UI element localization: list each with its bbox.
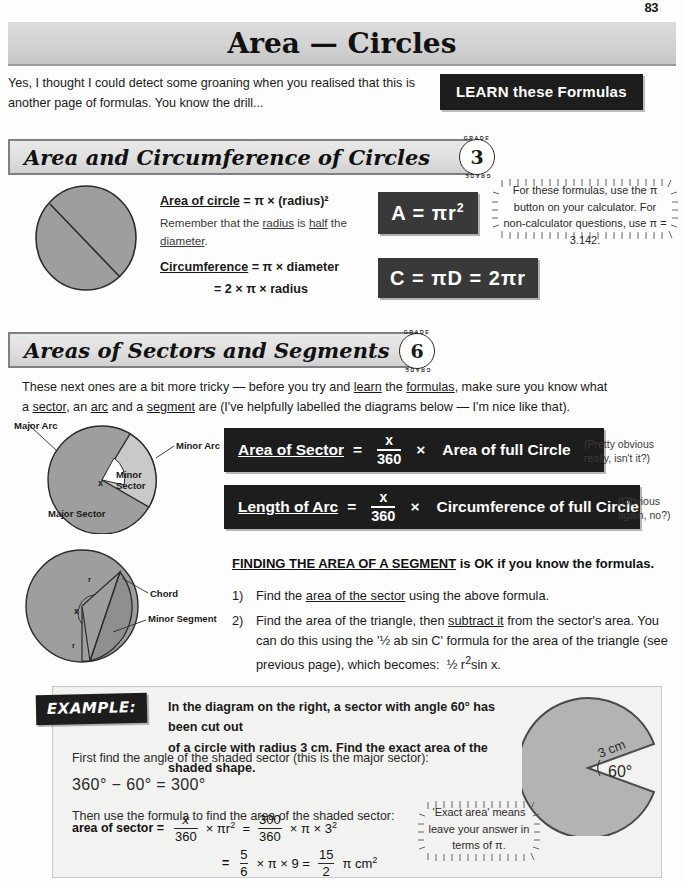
work1-fraction-1: x 360 [175,813,197,844]
area-of-circle-line: Area of circle = π × (radius)² [160,192,390,212]
section2-intro: These next ones are a bit more tricky — … [22,378,672,418]
example-tag: EXAMPLE: [36,693,148,725]
example-work-line-1: area of sector = x 360 × πr2 = 300 360 ×… [72,813,341,844]
area-of-sector-label: Area of Sector [238,441,344,459]
work1-fraction-2: 300 360 [259,813,281,844]
svg-text:x: x [74,606,79,616]
area-of-sector-tail: Area of full Circle [442,441,570,459]
circumference-label: Circumference [160,260,248,274]
numerator: x [183,813,190,827]
remark-pretty-obvious: (Pretty obvious really, isn't it?) [584,437,676,465]
section2-title: Areas of Sectors and Segments [24,338,389,363]
calculator-tip-text: For these formulas, use the π button on … [492,178,678,252]
fraction-denominator: 360 [371,509,395,524]
exact-area-bubble: 'Exact area' means leave your answer in … [418,800,540,858]
segment-heading: FINDING THE AREA OF A SEGMENT is OK if y… [232,556,654,571]
step-marker: 1) [232,586,256,606]
circumference-line-2: = 2 × π × radius [214,280,308,300]
fraction-x-over-360: x 360 [371,490,395,523]
step-text: Find the area of the sector using the ab… [256,586,672,606]
badge-number: 3 [456,136,498,178]
denominator: 6 [240,865,247,879]
work2-tail: π cm2 [342,855,377,871]
svg-text:x: x [98,478,103,488]
example-question-line1: In the diagram on the right, a sector wi… [168,700,495,734]
page-title-banner: Area — Circles [8,22,676,66]
formula-box-area: A = πr2 [378,192,478,234]
work2-label: = [222,856,229,870]
work2-fraction-2: 15 2 [319,848,333,879]
formula-box-circumference: C = πD = 2πr [378,258,538,298]
example-step1-text: First find the angle of the shaded secto… [72,748,492,769]
page-title: Area — Circles [228,27,457,60]
work1-tail: × π × 32 [290,820,337,836]
section-heading-area-circumference: Area and Circumference of Circles [8,139,472,175]
times-sign: × [416,441,425,459]
example-sector-diagram: 60° 3 cm [522,696,662,836]
step-marker: 2) [232,611,256,675]
segment-heading-rest: is OK if you know the formulas. [456,556,654,571]
area-of-circle-label: Area of circle [160,194,240,208]
equals-sign: = [353,441,362,459]
example-work-line-2: = 5 6 × π × 9 = 15 2 π cm2 [222,848,381,879]
formula-bar-length-of-arc: Length of Arc = x 360 × Circumference of… [224,485,640,529]
label-chord: Chord [150,588,178,599]
work1-mid: × πr2 = [206,820,250,836]
numerator: 15 [319,848,333,862]
list-item: 1) Find the area of the sector using the… [232,586,672,606]
numerator: 300 [259,813,281,827]
area-of-circle-formula: = π × (radius)² [240,194,329,208]
learn-formulas-box: LEARN these Formulas [440,74,643,110]
fraction-denominator: 360 [377,452,401,467]
grade-badge-3: GRADE GRADE 3 [456,136,498,178]
work2-fraction-1: 5 6 [240,848,247,879]
remark-obvious-again: (Obvious again, no?) [618,494,684,522]
fraction-numerator: x [379,490,387,504]
circle-diameter-diagram [28,184,148,292]
segment-heading-underlined: FINDING THE AREA OF A SEGMENT [232,556,456,571]
svg-text:r: r [88,575,91,584]
denominator: 360 [175,830,197,844]
badge-number: 6 [396,330,438,372]
section1-title: Area and Circumference of Circles [24,145,430,170]
label-minor-arc: Minor Arc [176,440,220,451]
segment-diagram: x r r [16,548,166,670]
label-major-arc: Major Arc [14,420,57,431]
work2-mid: × π × 9 = [256,856,309,871]
segment-steps-list: 1) Find the area of the sector using the… [232,586,672,680]
denominator: 360 [259,830,281,844]
length-of-arc-tail: Circumference of full Circle [437,498,639,516]
example-step1-calc: 360° − 60° = 300° [72,771,492,798]
formula-bar-area-of-sector: Area of Sector = x 360 × Area of full Ci… [224,428,604,472]
angle-label-60: 60° [608,763,632,780]
fraction-numerator: x [385,433,393,447]
equals-sign: = [347,498,356,516]
intro-paragraph: Yes, I thought I could detect some groan… [8,74,428,113]
list-item: 2) Find the area of the triangle, then s… [232,611,672,675]
grade-badge-6: GRADE GRADE 6 [396,330,438,372]
numerator: 5 [240,848,247,862]
svg-text:r: r [72,641,75,650]
denominator: 2 [323,865,330,879]
length-of-arc-label: Length of Arc [238,498,338,516]
circumference-formula: = π × diameter [248,260,339,274]
radius-note: Remember that the radius is half the dia… [160,214,392,251]
step-text: Find the area of the triangle, then subt… [256,611,672,675]
textbook-page: 83 Area — Circles Yes, I thought I could… [0,0,684,886]
times-sign: × [410,498,419,516]
fraction-x-over-360: x 360 [377,433,401,466]
section-heading-sectors-segments: Areas of Sectors and Segments [8,332,418,368]
formula-circumference-text: C = πD = 2πr [390,267,526,290]
intro-row: Yes, I thought I could detect some groan… [8,74,676,113]
label-major-sector: Major Sector [48,508,106,519]
label-minor-segment: Minor Segment [148,613,217,624]
circumference-line: Circumference = π × diameter [160,258,390,278]
label-minor-sector: Minor Sector [116,470,156,492]
work1-label: area of sector = [72,821,164,835]
calculator-tip-bubble: For these formulas, use the π button on … [492,178,678,252]
formula-area-text: A = πr2 [391,201,465,225]
page-number: 83 [645,0,658,15]
exact-area-text: 'Exact area' means leave your answer in … [418,800,540,858]
